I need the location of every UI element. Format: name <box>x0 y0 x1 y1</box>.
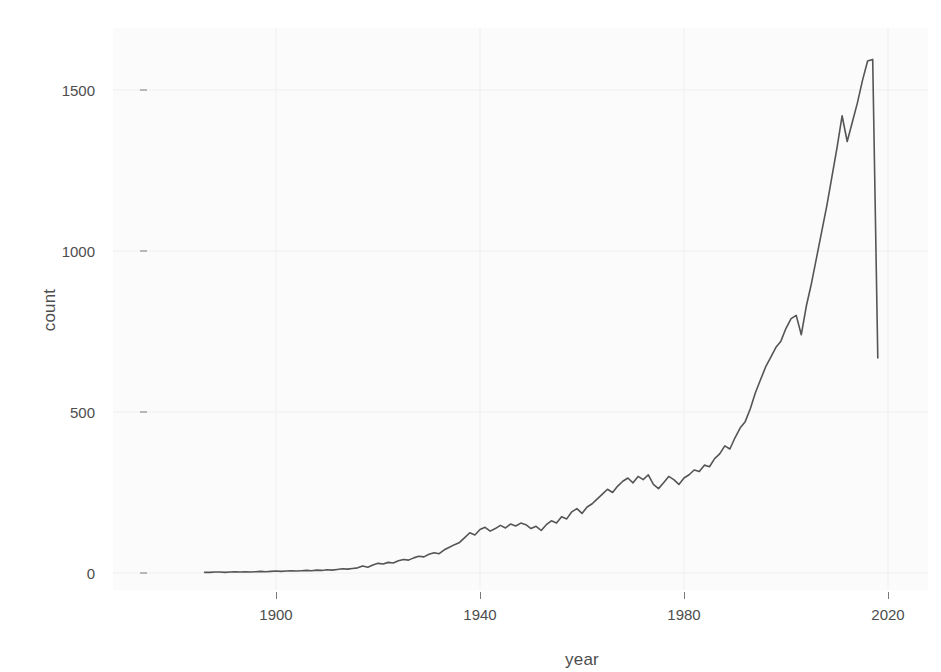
chart-figure: 050010001500 1900194019802020 count year <box>0 0 941 672</box>
y-axis-title: count <box>40 250 60 370</box>
y-tick-mark-1000 <box>140 251 147 252</box>
x-axis-title: year <box>276 650 888 670</box>
x-tick-mark-1980 <box>684 592 685 599</box>
y-tick-label-1500: 1500 <box>35 82 95 99</box>
x-tick-label-1940: 1940 <box>440 606 520 623</box>
x-tick-mark-1940 <box>480 592 481 599</box>
y-tick-mark-1500 <box>140 90 147 91</box>
plot-svg <box>113 28 928 590</box>
y-tick-label-500: 500 <box>35 404 95 421</box>
count-line-series <box>205 59 878 572</box>
x-tick-label-2020: 2020 <box>848 606 928 623</box>
x-tick-label-1980: 1980 <box>644 606 724 623</box>
y-tick-mark-0 <box>140 573 147 574</box>
x-tick-mark-1900 <box>276 592 277 599</box>
y-tick-mark-500 <box>140 412 147 413</box>
x-tick-mark-2020 <box>888 592 889 599</box>
y-tick-label-0: 0 <box>35 565 95 582</box>
plot-panel <box>113 28 928 590</box>
x-tick-label-1900: 1900 <box>236 606 316 623</box>
